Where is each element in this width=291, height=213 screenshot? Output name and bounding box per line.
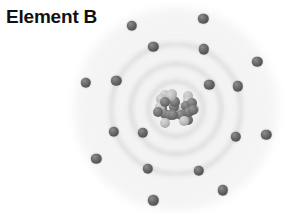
- electron-shell-3-3: [252, 57, 262, 67]
- electron-shell-2-8: [111, 76, 121, 86]
- nucleon: [188, 105, 198, 115]
- electron-shell-2-7: [109, 126, 119, 136]
- nucleon: [160, 97, 170, 107]
- electron-shell-2-3: [233, 81, 243, 91]
- electron-shell-2-2: [199, 44, 209, 54]
- nucleon: [153, 107, 163, 117]
- electron-shell-3-7: [91, 154, 101, 164]
- electron-shell-3-8: [80, 78, 90, 88]
- atom-diagram-figure: Element B: [0, 0, 291, 213]
- nucleon: [179, 116, 189, 126]
- bohr-atom-model: [0, 0, 291, 213]
- electron-shell-3-2: [198, 14, 208, 24]
- nucleus: [153, 86, 199, 132]
- page-title: Element B: [6, 6, 97, 28]
- electron-shell-1-2: [204, 80, 214, 90]
- electron-shell-3-4: [261, 130, 271, 140]
- electron-shell-3-5: [218, 185, 228, 195]
- nucleon: [160, 118, 170, 128]
- electron-shell-2-6: [143, 164, 153, 174]
- electron-shell-3-1: [127, 21, 137, 31]
- nucleon: [168, 110, 178, 120]
- electron-shell-2-4: [231, 132, 241, 142]
- electron-shell-2-5: [193, 166, 203, 176]
- electron-shell-1-1: [138, 128, 148, 138]
- electron-shell-2-1: [148, 42, 158, 52]
- electron-shell-3-6: [148, 195, 158, 205]
